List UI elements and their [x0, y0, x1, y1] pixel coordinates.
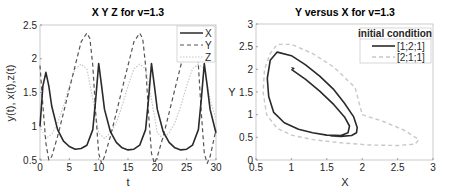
right-x-label: X — [341, 176, 349, 188]
legend-ic1: [1;2;1] — [397, 41, 425, 52]
legend-z: Z — [205, 52, 211, 63]
right-y-label: Y — [228, 86, 236, 98]
right-chart-title: Y versus X for v=1.3 — [295, 6, 395, 18]
y-tick-label: 1 — [247, 109, 253, 120]
x-tick-label: 1.5 — [320, 162, 334, 173]
legend-title: initial condition — [358, 28, 432, 39]
x-tick-label: 25 — [181, 162, 193, 173]
left-y-label: y(t), x(t),z(t) — [4, 65, 16, 122]
y-tick-label: 2.5 — [23, 20, 37, 31]
x-tick-label: 15 — [122, 162, 134, 173]
y-tick-label: 0 — [247, 155, 253, 166]
x-tick-label: 3 — [430, 162, 436, 173]
y-tick-label: 3 — [247, 19, 253, 30]
x-tick-label: 20 — [152, 162, 164, 173]
x-tick-label: 2 — [359, 162, 365, 173]
x-tick-label: 2.5 — [391, 162, 405, 173]
x-tick-label: 1 — [289, 162, 295, 173]
y-tick-label: 2.5 — [239, 41, 253, 52]
left-chart-title: X Y Z for v=1.3 — [92, 6, 164, 18]
y-tick-label: 0.5 — [239, 132, 253, 143]
legend-y: Y — [205, 40, 212, 51]
x-tick-label: 5 — [67, 162, 73, 173]
y-tick-label: 1.5 — [239, 87, 253, 98]
legend-ic2: [2;1;1] — [397, 52, 425, 63]
x-tick-label: 10 — [93, 162, 105, 173]
y-tick-label: 2 — [247, 64, 253, 75]
y-tick-label: 0.5 — [23, 155, 37, 166]
left-y-ticks: 0.511.522.5 — [23, 20, 42, 166]
left-legend: X Y Z — [177, 26, 215, 63]
legend-x: X — [205, 28, 212, 39]
right-legend: initial condition [1;2;1] [2;1;1] — [358, 28, 432, 63]
figure: X Y Z for v=1.3 051015202530 0.511.522.5… — [0, 0, 450, 196]
left-x-label: t — [126, 176, 129, 188]
y-tick-label: 1 — [31, 121, 37, 132]
y-tick-label: 2 — [31, 53, 37, 64]
y-tick-label: 1.5 — [23, 87, 37, 98]
right-y-ticks: 00.511.522.53 — [239, 19, 258, 166]
x-tick-label: 30 — [210, 162, 222, 173]
right-chart: Y versus X for v=1.3 0.511.522.53 00.511… — [228, 6, 436, 188]
x-tick-label: 0 — [37, 162, 43, 173]
left-chart: X Y Z for v=1.3 051015202530 0.511.522.5… — [4, 6, 222, 188]
